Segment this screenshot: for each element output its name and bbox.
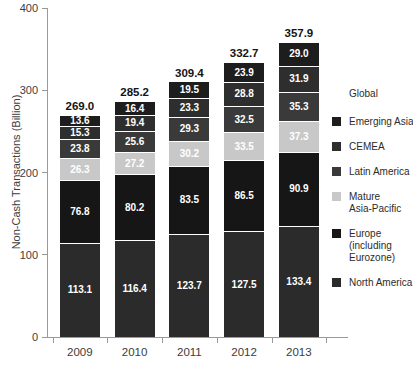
legend-item: MatureAsia-Pacific (332, 191, 413, 215)
y-axis-tick (42, 172, 47, 173)
segment-value: 116.4 (122, 284, 146, 294)
bar-segment: 28.8 (224, 83, 264, 107)
bar-segment: 127.5 (224, 232, 264, 337)
legend-label-line: Eurozone) (349, 252, 395, 264)
segment-value: 23.3 (180, 103, 199, 113)
total-label: 332.7 (216, 47, 272, 60)
legend-item-label: Europe(includingEurozone) (349, 228, 395, 264)
bar-segment: 23.3 (169, 99, 209, 118)
x-tick-label: 2013 (269, 346, 329, 358)
bar-segment: 90.9 (279, 153, 319, 228)
legend-label-line: (including (349, 240, 395, 252)
total-label: 357.9 (271, 27, 327, 40)
segment-value: 127.5 (232, 280, 257, 290)
segment-value: 15.3 (70, 128, 89, 138)
x-axis-tick (162, 338, 163, 343)
bar-2010: 16.419.425.627.280.2116.4 (115, 102, 155, 337)
x-tick-label: 2009 (50, 346, 110, 358)
bar-segment: 27.2 (115, 153, 155, 175)
bar-segment: 133.4 (279, 227, 319, 337)
legend-swatch (332, 167, 341, 176)
bar-segment: 25.6 (115, 132, 155, 153)
legend-item: Latin America (332, 166, 413, 178)
y-axis-tick (42, 8, 47, 9)
segment-value: 23.8 (70, 144, 89, 154)
y-axis-tick (42, 90, 47, 91)
segment-value: 13.6 (70, 116, 89, 126)
legend-item-label: MatureAsia-Pacific (349, 191, 401, 215)
bar-segment: 116.4 (115, 241, 155, 337)
bar-segment: 76.8 (60, 181, 100, 244)
bar-segment: 32.5 (224, 107, 264, 134)
bar-segment: 33.5 (224, 133, 264, 161)
segment-value: 19.5 (180, 85, 199, 95)
total-label: 269.0 (52, 100, 108, 113)
segment-value: 90.9 (289, 184, 308, 194)
segment-value: 133.4 (286, 277, 311, 287)
segment-value: 37.3 (289, 132, 308, 142)
legend-label-line: North America (349, 277, 412, 289)
segment-value: 123.7 (177, 281, 202, 291)
bar-2013: 29.031.935.337.390.9133.4 (279, 43, 319, 337)
total-label: 285.2 (107, 86, 163, 99)
x-axis-tick (107, 338, 108, 343)
legend-header-global: Global (349, 88, 413, 100)
legend-label-line: Latin America (349, 166, 410, 178)
y-tick-label: 400 (8, 2, 38, 14)
y-tick-label: 0 (8, 331, 38, 343)
plot-area: 010020030040013.615.323.826.376.8113.126… (47, 8, 348, 338)
bar-segment: 31.9 (279, 67, 319, 93)
bar-segment: 19.4 (115, 116, 155, 132)
bar-segment: 19.5 (169, 82, 209, 98)
bar-segment: 15.3 (60, 127, 100, 140)
bar-segment: 113.1 (60, 244, 100, 337)
segment-value: 26.3 (70, 165, 89, 175)
segment-value: 19.4 (125, 118, 144, 128)
total-label: 309.4 (161, 67, 217, 80)
x-axis-tick (53, 338, 54, 343)
legend-label-line: Europe (349, 228, 395, 240)
x-axis-tick (272, 338, 273, 343)
legend-label-line: Mature (349, 191, 401, 203)
bar-segment: 26.3 (60, 159, 100, 181)
legend-item-label: Latin America (349, 166, 410, 178)
x-axis-tick (326, 338, 327, 343)
bar-segment: 86.5 (224, 161, 264, 232)
y-tick-label: 100 (8, 249, 38, 261)
legend-swatch (332, 278, 341, 287)
bar-segment: 29.3 (169, 118, 209, 142)
legend-swatch (332, 142, 341, 151)
legend-swatch (332, 117, 341, 126)
segment-value: 27.2 (125, 159, 144, 169)
legend-label-line: CEMEA (349, 141, 385, 153)
bar-segment: 30.2 (169, 142, 209, 167)
legend: Global Emerging AsiaCEMEALatin AmericaMa… (332, 88, 413, 302)
legend-item: North America (332, 277, 413, 289)
bar-segment: 16.4 (115, 102, 155, 115)
bar-2012: 23.928.832.533.586.5127.5 (224, 63, 264, 337)
legend-item: Europe(includingEurozone) (332, 228, 413, 264)
bar-2011: 19.523.329.330.283.5123.7 (169, 82, 209, 337)
segment-value: 113.1 (68, 285, 92, 295)
x-tick-label: 2011 (159, 346, 219, 358)
bar-segment: 23.9 (224, 63, 264, 83)
segment-value: 32.5 (234, 115, 253, 125)
y-tick-label: 300 (8, 84, 38, 96)
legend-item-label: CEMEA (349, 141, 385, 153)
x-tick-label: 2010 (105, 346, 165, 358)
bar-segment: 123.7 (169, 235, 209, 337)
legend-item-label: Emerging Asia (349, 116, 413, 128)
y-axis-tick (42, 337, 47, 338)
x-tick-label: 2012 (214, 346, 274, 358)
legend-label-line: Asia-Pacific (349, 203, 401, 215)
segment-value: 83.5 (180, 195, 199, 205)
segment-value: 23.9 (234, 68, 253, 78)
bar-segment: 13.6 (60, 116, 100, 127)
legend-swatch (332, 229, 341, 238)
bar-segment: 23.8 (60, 140, 100, 160)
bar-segment: 80.2 (115, 175, 155, 241)
legend-label-line: Emerging Asia (349, 116, 413, 128)
segment-value: 35.3 (289, 102, 308, 112)
segment-value: 76.8 (70, 207, 89, 217)
legend-item-label: North America (349, 277, 412, 289)
